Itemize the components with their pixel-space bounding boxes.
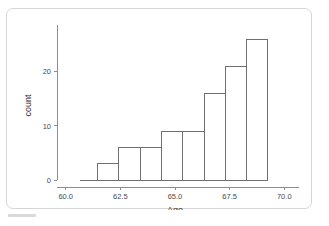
histogram-bars [97,39,267,180]
y-tick-label: 20 [43,67,51,76]
y-axis-title: count [23,94,33,117]
chart-card: count Age 01020 60.062.565.067.570.0 [6,8,312,209]
histogram-bar [97,164,118,180]
histogram-bar [247,39,268,180]
x-axis: 60.062.565.067.570.0 [57,187,299,201]
histogram-bar [140,147,161,180]
page-footer-stub [8,214,36,217]
histogram-bar [119,147,140,180]
histogram-bar [204,93,225,180]
histogram-plot: count Age 01020 60.062.565.067.570.0 [7,9,313,210]
histogram-bar [183,131,204,180]
histogram-svg: count Age 01020 60.062.565.067.570.0 [7,9,313,210]
y-tick-label: 10 [43,122,51,131]
histogram-bar [161,131,182,180]
x-tick-label: 70.0 [277,192,292,201]
x-axis-title: Age [167,205,183,210]
x-tick-label: 60.0 [58,192,73,201]
histogram-bar [225,66,246,180]
screenshot-page: count Age 01020 60.062.565.067.570.0 [0,0,329,226]
y-tick-label: 0 [47,176,51,185]
x-tick-label: 62.5 [113,192,128,201]
x-tick-label: 67.5 [222,192,237,201]
x-tick-label: 65.0 [168,192,183,201]
y-axis: 01020 [43,25,57,185]
